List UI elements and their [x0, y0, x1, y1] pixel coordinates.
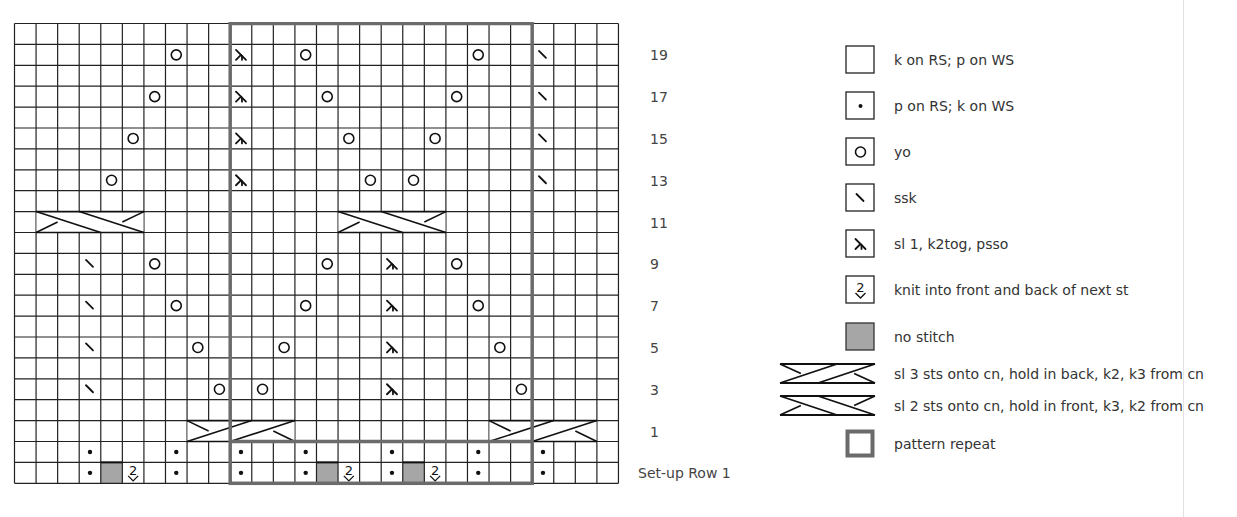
- row-label: 7: [650, 298, 659, 314]
- sk2p-icon: [387, 259, 397, 269]
- purl-dot-icon: [174, 450, 178, 454]
- yo-icon: [171, 301, 181, 311]
- ssk-icon: [86, 343, 93, 350]
- yo-icon: [473, 301, 483, 311]
- no-stitch-cell: [403, 462, 425, 483]
- svg-text:2: 2: [856, 280, 864, 295]
- sk2p-icon: [236, 92, 246, 102]
- purl-dot-icon: [390, 471, 394, 475]
- pattern-repeat-icon: [845, 429, 876, 459]
- no-stitch-cell: [316, 462, 338, 483]
- yo-icon: [495, 342, 505, 352]
- no-stitch-cell: [101, 462, 123, 483]
- yo-icon: [473, 50, 483, 60]
- purl-dot-icon: [303, 450, 307, 454]
- row-label: Set-up Row 1: [638, 465, 731, 481]
- yo-icon: [107, 175, 117, 185]
- ssk-icon: [539, 51, 546, 58]
- sk2p-icon: [387, 342, 397, 352]
- sk2p-icon: [387, 384, 397, 394]
- legend-label: knit into front and back of next st: [894, 282, 1129, 298]
- purl-dot-icon: [88, 450, 92, 454]
- ssk-icon: [539, 93, 546, 100]
- yo-icon: [344, 133, 354, 143]
- chart-grid: 222: [13, 22, 621, 486]
- yo-icon: [193, 342, 203, 352]
- cable-back-cross-icon: [187, 421, 295, 442]
- svg-text:2: 2: [345, 463, 353, 478]
- yo-icon: [128, 133, 138, 143]
- yo-icon: [301, 301, 311, 311]
- purl-dot-icon: [476, 471, 480, 475]
- yo-circle-icon: [845, 137, 876, 167]
- cable-back-cross-icon: [779, 363, 877, 385]
- sk2p-icon: [236, 133, 246, 143]
- cable-front-cross-icon: [779, 395, 877, 417]
- yo-icon: [409, 175, 419, 185]
- kfb-icon: 2: [430, 463, 440, 481]
- yo-icon: [452, 259, 462, 269]
- knit-box-icon: [845, 45, 876, 75]
- chart-title-clipped: [20, 0, 440, 4]
- purl-dot-icon: [239, 450, 243, 454]
- yo-icon: [322, 259, 332, 269]
- purl-dot-icon: [303, 471, 307, 475]
- row-label: 13: [650, 173, 668, 189]
- ssk-icon: [86, 385, 93, 392]
- purl-dot-icon: [390, 450, 394, 454]
- yo-icon: [452, 92, 462, 102]
- legend-label: sl 3 sts onto cn, hold in back, k2, k3 f…: [894, 366, 1204, 382]
- kfb-icon: 2: [128, 463, 138, 481]
- ssk-icon: [539, 176, 546, 183]
- kfb-icon: 2: [344, 463, 354, 481]
- sk2p-icon: [387, 301, 397, 311]
- row-label: 17: [650, 89, 668, 105]
- purl-dot-icon: [174, 471, 178, 475]
- ssk-icon: [539, 134, 546, 141]
- row-label: 15: [650, 131, 668, 147]
- legend-label: no stitch: [894, 329, 955, 345]
- sk2p-icon: [236, 50, 246, 60]
- page-divider: [1183, 0, 1184, 517]
- legend-label: p on RS; k on WS: [894, 98, 1014, 114]
- row-label: 1: [650, 424, 659, 440]
- row-label: 19: [650, 47, 668, 63]
- purl-dot-icon: [541, 450, 545, 454]
- yo-icon: [150, 92, 160, 102]
- legend-label: k on RS; p on WS: [894, 52, 1014, 68]
- cable-front-cross-icon: [36, 212, 144, 233]
- row-label: 11: [650, 215, 668, 231]
- yo-icon: [258, 384, 268, 394]
- grid-lines: [15, 24, 619, 484]
- sk2p-icon: [236, 175, 246, 185]
- yo-icon: [430, 133, 440, 143]
- svg-text:2: 2: [431, 463, 439, 478]
- yo-icon: [322, 92, 332, 102]
- yo-icon: [214, 384, 224, 394]
- ssk-icon: [86, 260, 93, 267]
- legend-label: ssk: [894, 190, 917, 206]
- legend-label: pattern repeat: [894, 436, 996, 452]
- purl-dot-icon: [541, 471, 545, 475]
- row-label: 5: [650, 340, 659, 356]
- cable-front-cross-icon: [338, 212, 446, 233]
- no-stitch-icon: [845, 322, 876, 352]
- row-label: 3: [650, 382, 659, 398]
- yo-icon: [150, 259, 160, 269]
- purl-dot-icon: [845, 91, 876, 121]
- yo-icon: [301, 50, 311, 60]
- sk2p-icon: [845, 229, 876, 259]
- row-label: 9: [650, 256, 659, 272]
- ssk-slash-icon: [845, 183, 876, 213]
- purl-dot-icon: [88, 471, 92, 475]
- ssk-icon: [86, 302, 93, 309]
- cable-back-cross-icon: [489, 421, 597, 442]
- legend-label: sl 2 sts onto cn, hold in front, k3, k2 …: [894, 398, 1204, 414]
- yo-icon: [516, 384, 526, 394]
- yo-icon: [171, 50, 181, 60]
- purl-dot-icon: [476, 450, 480, 454]
- legend-label: yo: [894, 144, 911, 160]
- yo-icon: [365, 175, 375, 185]
- kfb-icon: 2: [845, 275, 876, 305]
- legend-label: sl 1, k2tog, psso: [894, 236, 1008, 252]
